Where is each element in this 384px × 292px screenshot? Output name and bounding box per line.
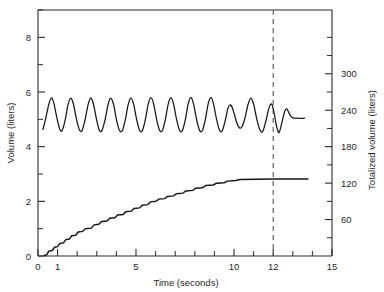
y-axis-tick-label: 0 [26, 251, 31, 262]
volume-vs-time-chart: 015101215 02468 60120180240300 Time (sec… [0, 0, 384, 292]
x-axis-tick-label: 10 [229, 261, 240, 272]
y-axis-tick-label: 6 [26, 87, 31, 98]
y2-axis-tick-label: 120 [341, 178, 357, 189]
y2-axis-tick-label: 60 [341, 214, 352, 225]
plot-frame [38, 10, 332, 256]
y-axis-tick-label: 8 [26, 32, 31, 43]
y-axis-tick-labels: 02468 [26, 32, 31, 262]
y2-axis-ticks [325, 37, 332, 237]
chart-container: 015101215 02468 60120180240300 Time (sec… [0, 0, 384, 292]
y2-axis-tick-labels: 60120180240300 [341, 68, 357, 225]
series-path [43, 97, 305, 132]
x-axis-tick-label: 1 [55, 261, 60, 272]
x-axis-tick-labels: 015101215 [35, 261, 337, 272]
x-axis-tick-label: 5 [133, 261, 138, 272]
y-axis-ticks [38, 10, 45, 256]
y-axis-tick-label: 2 [26, 196, 31, 207]
x-axis-tick-label: 0 [35, 261, 40, 272]
x-axis-tick-label: 12 [268, 261, 279, 272]
x-axis-title: Time (seconds) [153, 277, 218, 288]
y2-axis-tick-label: 240 [341, 105, 357, 116]
x-axis-tick-label: 15 [327, 261, 338, 272]
y2-axis-tick-label: 180 [341, 141, 357, 152]
series-path [44, 179, 309, 256]
y-axis-title: Volume (liters) [5, 103, 16, 164]
chart-series [43, 97, 309, 255]
y-axis-tick-label: 4 [26, 141, 31, 152]
y2-axis-tick-label: 300 [341, 68, 357, 79]
x-axis-ticks [38, 249, 332, 256]
y2-axis-title: Totalized volume (liters) [366, 90, 377, 190]
